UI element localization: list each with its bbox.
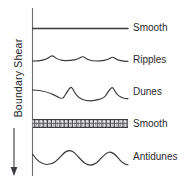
bedform-label-ripples: Ripples — [133, 55, 166, 65]
bedform-profile-antidunes — [33, 151, 129, 166]
bedform-label-dunes: Dunes — [133, 87, 162, 97]
bedform-label-antidunes: Antidunes — [133, 152, 177, 162]
bedform-label-smooth-lower: Smooth — [133, 23, 167, 33]
increasing-shear-arrow-icon — [11, 128, 18, 176]
bedform-profile-smooth-upper — [33, 120, 129, 128]
bedform-profile-ripples — [33, 56, 129, 61]
bedform-sequence-figure: Boundary Shear — [0, 0, 185, 182]
bedform-profile-dunes — [33, 87, 129, 100]
bedform-label-smooth-upper: Smooth — [133, 119, 167, 129]
